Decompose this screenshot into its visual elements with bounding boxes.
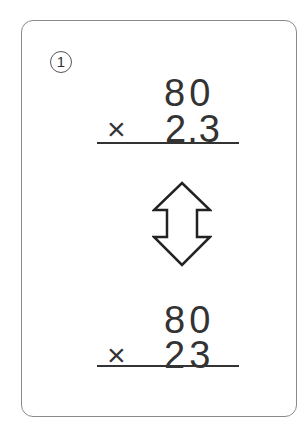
top-answer-line [97, 142, 239, 144]
bottom-multiplier: 23 [164, 335, 214, 375]
bottom-answer-line [97, 365, 239, 367]
up-down-arrow-icon [152, 181, 212, 267]
top-multiplicand: 80 [164, 73, 214, 113]
problem-number-badge: 1 [50, 51, 72, 73]
bottom-multiply-sign: × [107, 335, 126, 375]
